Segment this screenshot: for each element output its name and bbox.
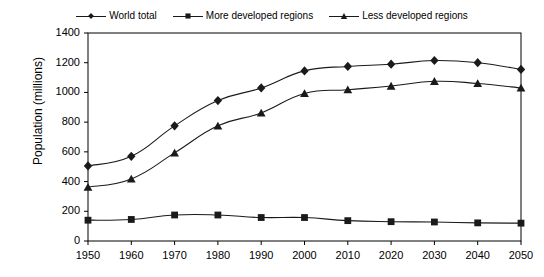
x-axis-tick-label: 1970: [155, 250, 195, 261]
data-point-marker: [431, 219, 438, 226]
data-point-marker: [474, 219, 481, 226]
data-point-marker: [215, 212, 222, 219]
y-axis-tick-label: 1200: [40, 57, 80, 68]
x-axis-tick-label: 2030: [414, 250, 454, 261]
data-point-marker: [171, 212, 178, 219]
x-axis-tick-label: 1950: [68, 250, 108, 261]
x-axis-tick-label: 2050: [501, 250, 541, 261]
y-axis-tick-label: 400: [40, 176, 80, 187]
y-axis-tick-label: 1400: [40, 27, 80, 38]
y-axis-tick-label: 0: [40, 235, 80, 246]
y-axis-tick-label: 1000: [40, 86, 80, 97]
data-point-marker: [388, 218, 395, 225]
plot-frame: [88, 33, 521, 241]
x-axis-tick-label: 1990: [241, 250, 281, 261]
y-axis-tick-label: 200: [40, 205, 80, 216]
x-axis-tick-label: 2000: [285, 250, 325, 261]
x-axis-tick-label: 2020: [371, 250, 411, 261]
data-point-marker: [128, 216, 135, 223]
x-axis-tick-label: 2040: [458, 250, 498, 261]
population-projection-line-chart: World total More developed regions Less …: [0, 0, 544, 277]
plot-area: 0200400600800100012001400195019601970198…: [0, 0, 544, 277]
data-point-marker: [258, 214, 265, 221]
data-point-marker: [344, 217, 351, 224]
data-point-marker: [301, 214, 308, 221]
x-axis-tick-label: 2010: [328, 250, 368, 261]
plot-canvas: [0, 0, 544, 277]
x-axis-tick-label: 1980: [198, 250, 238, 261]
data-point-marker: [518, 220, 525, 227]
data-point-marker: [85, 217, 92, 224]
y-axis-tick-label: 600: [40, 146, 80, 157]
x-axis-tick-label: 1960: [111, 250, 151, 261]
y-axis-tick-label: 800: [40, 116, 80, 127]
